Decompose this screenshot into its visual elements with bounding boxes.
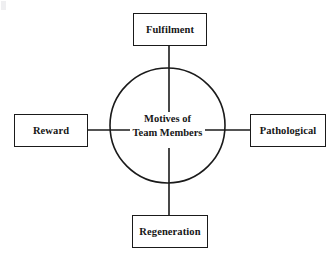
node-regeneration-label: Regeneration: [139, 226, 200, 238]
center-circle: [110, 68, 225, 183]
node-pathological-label: Pathological: [260, 125, 317, 137]
node-reward[interactable]: Reward: [14, 114, 88, 147]
scan-artifact: [1, 1, 6, 10]
node-regeneration[interactable]: Regeneration: [132, 215, 208, 248]
node-reward-label: Reward: [33, 125, 69, 137]
node-fulfilment-label: Fulfilment: [146, 24, 194, 36]
node-pathological[interactable]: Pathological: [250, 114, 326, 147]
diagram-canvas: Motives of Team Members Fulfilment Rewar…: [0, 0, 334, 257]
node-fulfilment[interactable]: Fulfilment: [133, 13, 207, 46]
